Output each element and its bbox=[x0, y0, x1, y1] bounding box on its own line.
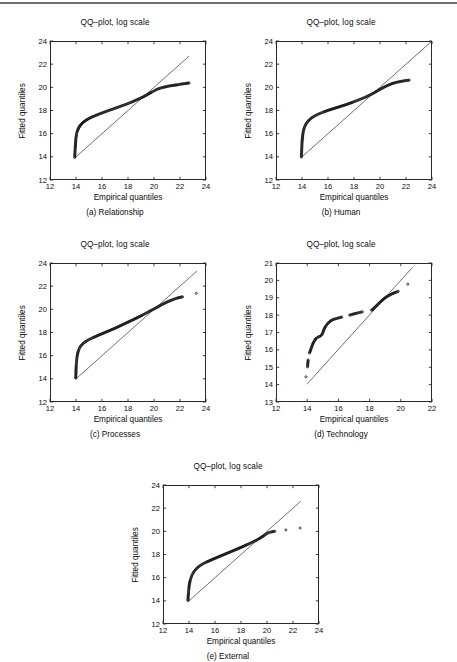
x-tick-label: 24 bbox=[306, 626, 332, 635]
x-tick-label: 14 bbox=[289, 182, 315, 191]
x-tick-label: 24 bbox=[193, 182, 219, 191]
y-axis-label: Fitted quantiles bbox=[17, 41, 27, 180]
y-tick-label: 14 bbox=[138, 596, 160, 605]
x-tick-label: 14 bbox=[63, 404, 89, 413]
y-tick-label: 18 bbox=[25, 328, 47, 337]
panel-caption: (c) Processes bbox=[6, 430, 224, 440]
y-tick-label: 18 bbox=[251, 311, 273, 320]
y-tick-label: 22 bbox=[25, 60, 47, 69]
y-tick-label: 20 bbox=[251, 83, 273, 92]
x-tick-label: 16 bbox=[202, 626, 228, 635]
data-points bbox=[305, 283, 409, 378]
y-axis-label: Fitted quantiles bbox=[17, 263, 27, 402]
y-tick-label: 19 bbox=[251, 293, 273, 302]
x-axis-label: Empirical quantiles bbox=[50, 193, 206, 203]
plot-area bbox=[163, 485, 319, 624]
reference-line bbox=[301, 41, 432, 157]
y-tick-label: 20 bbox=[251, 276, 273, 285]
x-tick-label: 16 bbox=[315, 182, 341, 191]
y-tick-label: 20 bbox=[25, 305, 47, 314]
panel-title: QQ–plot, log scale bbox=[6, 240, 224, 250]
y-tick-label: 16 bbox=[251, 345, 273, 354]
y-axis-label: Fitted quantiles bbox=[130, 485, 140, 624]
data-points bbox=[187, 527, 301, 602]
data-points bbox=[300, 79, 410, 158]
y-tick-label: 14 bbox=[251, 152, 273, 161]
y-tick-label: 24 bbox=[25, 37, 47, 46]
x-tick-label: 18 bbox=[115, 182, 141, 191]
x-tick-label: 14 bbox=[176, 626, 202, 635]
panel-caption: (e) External bbox=[119, 652, 337, 662]
x-tick-label: 24 bbox=[419, 182, 445, 191]
panel-caption: (a) Relationship bbox=[6, 208, 224, 218]
reference-line bbox=[188, 501, 300, 601]
panel-c: QQ–plot, log scale1214161820222412141618… bbox=[6, 240, 224, 445]
y-tick-label: 24 bbox=[25, 259, 47, 268]
y-tick-label: 12 bbox=[25, 398, 47, 407]
plot-area bbox=[276, 41, 432, 180]
plot-area bbox=[50, 41, 206, 180]
reference-line bbox=[307, 267, 413, 384]
reference-line bbox=[76, 271, 197, 379]
y-tick-label: 12 bbox=[25, 176, 47, 185]
panel-b: QQ–plot, log scale1214161820222412141618… bbox=[232, 18, 450, 223]
x-tick-label: 14 bbox=[294, 404, 320, 413]
data-points bbox=[75, 292, 198, 379]
plot-canvas bbox=[50, 263, 206, 402]
y-tick-label: 16 bbox=[25, 351, 47, 360]
panel-caption: (b) Human bbox=[232, 208, 450, 218]
x-tick-label: 14 bbox=[63, 182, 89, 191]
panel-title: QQ–plot, log scale bbox=[119, 462, 337, 472]
x-tick-label: 22 bbox=[419, 404, 445, 413]
x-tick-label: 18 bbox=[341, 182, 367, 191]
x-tick-label: 20 bbox=[141, 404, 167, 413]
reference-line bbox=[75, 56, 189, 158]
plot-canvas bbox=[276, 41, 432, 180]
panel-title: QQ–plot, log scale bbox=[6, 18, 224, 28]
panel-title: QQ–plot, log scale bbox=[232, 240, 450, 250]
x-axis-label: Empirical quantiles bbox=[163, 637, 319, 647]
y-tick-label: 12 bbox=[251, 176, 273, 185]
data-points bbox=[74, 82, 191, 159]
panel-caption: (d) Technology bbox=[232, 430, 450, 440]
y-tick-label: 13 bbox=[251, 398, 273, 407]
x-tick-label: 20 bbox=[388, 404, 414, 413]
x-tick-label: 18 bbox=[357, 404, 383, 413]
x-tick-label: 16 bbox=[325, 404, 351, 413]
y-tick-label: 21 bbox=[251, 259, 273, 268]
plot-canvas bbox=[50, 41, 206, 180]
panel-a: QQ–plot, log scale1214161820222412141618… bbox=[6, 18, 224, 223]
plot-area bbox=[50, 263, 206, 402]
plot-canvas bbox=[163, 485, 319, 624]
y-tick-label: 17 bbox=[251, 328, 273, 337]
x-tick-label: 16 bbox=[89, 404, 115, 413]
y-tick-label: 15 bbox=[251, 363, 273, 372]
x-axis-label: Empirical quantiles bbox=[276, 193, 432, 203]
y-tick-label: 20 bbox=[138, 527, 160, 536]
page-top-rule bbox=[0, 2, 457, 4]
x-tick-label: 18 bbox=[228, 626, 254, 635]
y-tick-label: 12 bbox=[138, 620, 160, 629]
x-tick-label: 20 bbox=[367, 182, 393, 191]
x-tick-label: 20 bbox=[254, 626, 280, 635]
y-axis-label: Fitted quantiles bbox=[243, 263, 253, 402]
y-tick-label: 20 bbox=[25, 83, 47, 92]
x-tick-label: 16 bbox=[89, 182, 115, 191]
panel-title: QQ–plot, log scale bbox=[232, 18, 450, 28]
y-tick-label: 14 bbox=[251, 380, 273, 389]
y-tick-label: 14 bbox=[25, 152, 47, 161]
x-axis-label: Empirical quantiles bbox=[50, 415, 206, 425]
panel-d: QQ–plot, log scale1214161820221314151617… bbox=[232, 240, 450, 445]
y-tick-label: 16 bbox=[251, 129, 273, 138]
panel-e: QQ–plot, log scale1214161820222412141618… bbox=[119, 462, 337, 659]
y-tick-label: 22 bbox=[138, 504, 160, 513]
y-tick-label: 22 bbox=[251, 60, 273, 69]
x-tick-label: 22 bbox=[167, 404, 193, 413]
y-tick-label: 18 bbox=[138, 550, 160, 559]
x-tick-label: 22 bbox=[167, 182, 193, 191]
y-tick-label: 24 bbox=[251, 37, 273, 46]
y-tick-label: 16 bbox=[138, 573, 160, 582]
y-tick-label: 14 bbox=[25, 374, 47, 383]
y-tick-label: 22 bbox=[25, 282, 47, 291]
